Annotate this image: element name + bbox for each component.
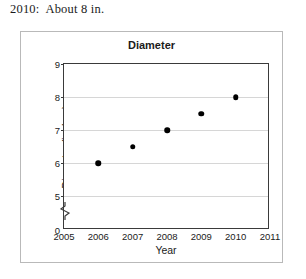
x-axis-tick-label: 2008 bbox=[156, 231, 177, 242]
gridline bbox=[64, 196, 268, 197]
y-axis-tick-mark bbox=[61, 196, 64, 197]
y-axis-origin-label: 0 bbox=[55, 225, 60, 236]
data-point bbox=[130, 144, 136, 150]
y-axis-tick-label: 5 bbox=[55, 191, 60, 202]
x-axis-title: Year bbox=[63, 244, 269, 256]
answer-text: 2010: About 8 in. bbox=[10, 2, 104, 17]
y-axis-tick-label: 9 bbox=[55, 59, 60, 70]
y-axis-tick-mark bbox=[61, 64, 64, 65]
y-axis-tick-label: 6 bbox=[55, 158, 60, 169]
y-axis-tick-mark bbox=[61, 163, 64, 164]
data-point bbox=[96, 160, 102, 166]
x-axis-tick-label: 2009 bbox=[191, 231, 212, 242]
data-point bbox=[164, 127, 170, 133]
chart-title: Diameter bbox=[21, 39, 282, 51]
data-point bbox=[233, 94, 239, 100]
plot-area: 56789 2005200620072008200920102011 0 bbox=[63, 63, 269, 229]
y-axis-tick-mark bbox=[61, 97, 64, 98]
x-axis-tick-label: 2010 bbox=[225, 231, 246, 242]
y-axis-tick-label: 8 bbox=[55, 92, 60, 103]
data-point bbox=[199, 111, 205, 117]
axis-break-icon bbox=[59, 202, 71, 220]
x-axis-tick-label: 2007 bbox=[122, 231, 143, 242]
y-axis-tick-label: 7 bbox=[55, 125, 60, 136]
chart-figure: Diameter Diameter (inches) 56789 2005200… bbox=[20, 31, 283, 263]
x-axis-tick-label: 2006 bbox=[88, 231, 109, 242]
y-axis-tick-mark bbox=[61, 130, 64, 131]
x-axis-tick-label: 2011 bbox=[260, 231, 280, 242]
